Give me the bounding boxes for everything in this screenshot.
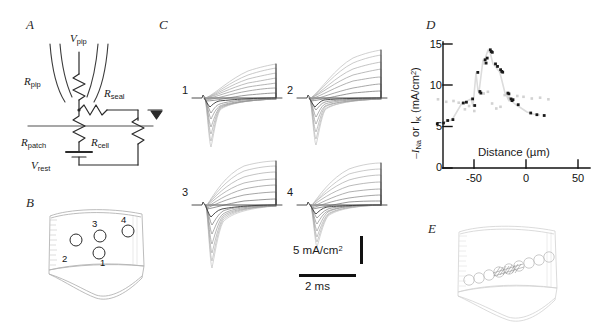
recording-site-circle-2 <box>70 234 82 246</box>
trace-svg-3 <box>190 160 295 290</box>
y-tick-label-5: 5 <box>424 120 442 132</box>
label-v-rest-main: V <box>31 159 38 171</box>
label-v-pip: Vpip <box>70 33 87 45</box>
scan-site-circles <box>464 252 554 285</box>
panel-label-d: D <box>426 18 435 31</box>
y-axis-label: –INa or IK (mA/cm2) <box>409 53 423 173</box>
label-r-seal: Rseal <box>104 88 125 100</box>
label-r-pip: Rpip <box>24 76 41 88</box>
recording-site-circle-3 <box>94 230 106 242</box>
label-r-seal-main: R <box>104 87 111 99</box>
label-r-cell: Rcell <box>91 137 109 149</box>
scale-current-exponent: 2 <box>338 244 342 253</box>
y-axis-label-post: (mA/cm <box>409 75 421 116</box>
cell-outline-b-svg <box>38 200 158 310</box>
y-axis-label-mid: or I <box>409 121 421 140</box>
recording-site-circle-4 <box>122 225 134 237</box>
label-r-seal-sub: seal <box>111 92 125 101</box>
site-label-3: 3 <box>92 218 97 229</box>
scale-current-label: 5 mA/cm2 <box>293 245 343 257</box>
label-r-pip-sub: pip <box>31 80 41 89</box>
label-v-pip-main: V <box>70 32 77 44</box>
x-tick-label-0: 0 <box>511 172 541 184</box>
label-r-patch: Rpatch <box>21 137 46 149</box>
panel-label-b: B <box>26 196 34 209</box>
y-axis-label-end: ) <box>409 67 421 71</box>
y-axis-label-sub-k: K <box>414 116 423 121</box>
trace-panel-2 <box>295 48 400 166</box>
trace-label-2: 2 <box>287 84 293 96</box>
trace-svg-1 <box>190 55 295 165</box>
scale-time-label: 2 ms <box>305 281 330 293</box>
figure-canvas: A <box>0 0 598 332</box>
x-tick-label-50: 50 <box>563 172 593 184</box>
y-tick-label-15: 15 <box>424 38 442 50</box>
x-tick-label-minus50: -50 <box>459 172 489 184</box>
scale-current-text: 5 mA/cm <box>293 244 338 256</box>
x-axis-label: Distance (µm) <box>478 147 550 159</box>
trace-label-1: 1 <box>182 84 188 96</box>
site-label-2: 2 <box>62 253 67 264</box>
scale-bar-vertical <box>360 236 363 264</box>
panel-b-cell-drawing <box>38 200 158 310</box>
trace-panel-1 <box>190 55 295 165</box>
trace-panel-3 <box>190 160 295 290</box>
trace-svg-2 <box>295 48 400 166</box>
site-label-1: 1 <box>100 257 105 268</box>
scale-bar-horizontal <box>299 274 356 277</box>
y-axis-label-pre: –I <box>409 150 421 159</box>
trace-label-3: 3 <box>182 186 188 198</box>
y-axis-label-sub-na: Na <box>414 140 423 150</box>
y-axis-label-sup: 2 <box>409 71 418 75</box>
panel-a-circuit <box>10 22 175 177</box>
label-r-patch-main: R <box>21 136 28 148</box>
panel-label-e: E <box>428 222 436 235</box>
label-v-pip-sub: pip <box>77 37 87 46</box>
panel-label-c: C <box>159 18 168 31</box>
label-r-cell-main: R <box>91 136 98 148</box>
trace-svg-4 <box>295 160 400 280</box>
y-tick-label-10: 10 <box>424 79 442 91</box>
cell-outline-e-svg <box>445 218 570 330</box>
trace-panel-4 <box>295 160 400 280</box>
site-label-4: 4 <box>121 214 126 225</box>
circuit-diagram-svg <box>10 22 175 177</box>
label-r-pip-main: R <box>24 75 31 87</box>
y-axis-label-wrap: –INa or IK (mA/cm2) <box>398 58 416 178</box>
trace-label-4: 4 <box>287 186 293 198</box>
y-tick-label-0: 0 <box>424 161 442 173</box>
label-r-patch-sub: patch <box>28 141 46 150</box>
label-r-cell-sub: cell <box>98 141 109 150</box>
panel-e-cell-drawing <box>445 218 570 330</box>
label-v-rest-sub: rest <box>38 164 51 173</box>
label-v-rest: Vrest <box>31 160 50 172</box>
